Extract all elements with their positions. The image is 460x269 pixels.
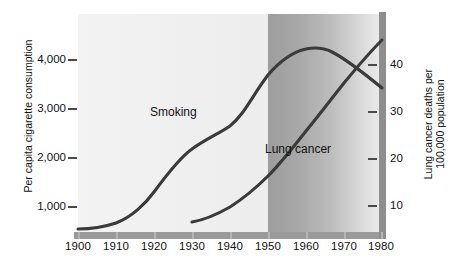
series-label-lung-cancer: Lung cancer bbox=[265, 142, 331, 156]
x-tick-1930 bbox=[192, 232, 194, 239]
right-tick-label-30: 30 bbox=[390, 105, 420, 117]
x-tick-label-1980: 1980 bbox=[358, 240, 404, 252]
left-tick-4000 bbox=[68, 59, 77, 61]
right-tick-label-40: 40 bbox=[390, 58, 420, 70]
x-tick-1950 bbox=[268, 232, 270, 239]
x-tick-1970 bbox=[344, 232, 346, 239]
right-axis-title: Lung cancer deaths per 100,000 populatio… bbox=[422, 34, 446, 214]
right-tick-20 bbox=[368, 158, 377, 160]
left-tick-3000 bbox=[68, 108, 77, 110]
x-tick-1960 bbox=[306, 232, 308, 239]
x-tick-1910 bbox=[116, 232, 118, 239]
right-axis-bar bbox=[379, 12, 386, 239]
left-axis-title: Per capita cigarette consumption bbox=[22, 11, 34, 221]
chart-figure: 4,000 3,000 2,000 1,000 40 30 20 10 1900… bbox=[0, 0, 460, 269]
right-tick-label-20: 20 bbox=[390, 152, 420, 164]
left-tick-1000 bbox=[68, 206, 77, 208]
background-band-pre1950 bbox=[78, 14, 268, 232]
right-tick-10 bbox=[368, 205, 377, 207]
plot-area bbox=[78, 14, 382, 232]
series-label-smoking: Smoking bbox=[150, 105, 197, 119]
right-axis-title-line2: 100,000 population bbox=[434, 79, 446, 168]
right-tick-label-10: 10 bbox=[390, 199, 420, 211]
right-axis-title-line1: Lung cancer deaths per bbox=[422, 69, 434, 179]
x-tick-1980 bbox=[381, 232, 383, 239]
right-tick-30 bbox=[368, 111, 377, 113]
x-tick-1900 bbox=[78, 232, 80, 239]
right-tick-40 bbox=[368, 64, 377, 66]
left-tick-2000 bbox=[68, 157, 77, 159]
x-tick-1920 bbox=[154, 232, 156, 239]
x-tick-1940 bbox=[230, 232, 232, 239]
background-band-post1950 bbox=[268, 14, 382, 232]
